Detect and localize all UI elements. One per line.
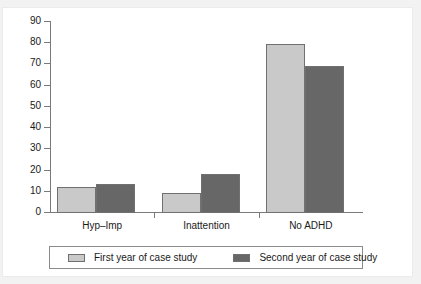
y-tick-mark [44,148,50,149]
y-tick-label: 60 [17,80,41,90]
y-tick-label-wrap: 30 [3,143,41,153]
y-tick-mark [44,106,50,107]
y-tick-label-wrap: 40 [3,122,41,132]
bar-0-2 [266,44,305,213]
chart-legend: First year of case study Second year of … [49,246,363,269]
y-tick-label-wrap: 0 [3,207,41,217]
x-tick-label-2: No ADHD [259,220,363,232]
y-tick-label-wrap: 20 [3,165,41,175]
y-tick-label: 10 [17,186,41,196]
y-tick-mark [44,127,50,128]
bar-chart-figure: 9080706050403020100 Hyp–ImpInattentionNo… [3,8,412,276]
bar-1-0 [96,184,135,213]
y-tick-mark [44,85,50,86]
x-tick-mark [259,213,260,218]
legend-label-second-year: Second year of case study [259,252,377,263]
bar-1-1 [201,174,240,213]
y-tick-label: 70 [17,58,41,68]
x-tick-label-0: Hyp–Imp [50,220,154,232]
legend-label-first-year: First year of case study [94,252,197,263]
y-tick-mark [44,170,50,171]
y-tick-mark [44,42,50,43]
y-tick-label-wrap: 60 [3,80,41,90]
y-tick-mark [44,21,50,22]
legend-swatch-second-year [233,254,250,262]
legend-entry-second-year: Second year of case study [233,252,377,263]
legend-entry-first-year: First year of case study [68,252,197,263]
y-tick-mark [44,212,50,213]
bar-0-0 [57,187,96,213]
y-tick-mark [44,191,50,192]
x-tick-mark [154,213,155,218]
y-tick-label: 30 [17,143,41,153]
y-tick-label-wrap: 70 [3,58,41,68]
y-tick-label: 50 [17,101,41,111]
y-tick-mark [44,63,50,64]
y-tick-label: 0 [17,207,41,217]
y-tick-label: 80 [17,37,41,47]
y-tick-label-wrap: 50 [3,101,41,111]
y-tick-label: 20 [17,165,41,175]
page-sheet: 9080706050403020100 Hyp–ImpInattentionNo… [3,8,412,276]
y-tick-label-wrap: 90 [3,16,41,26]
legend-swatch-first-year [68,254,85,262]
y-tick-label-wrap: 80 [3,37,41,47]
x-tick-label-1: Inattention [154,220,258,232]
y-tick-label: 40 [17,122,41,132]
bar-0-1 [162,193,201,213]
y-axis-line [50,21,51,213]
y-tick-label: 90 [17,16,41,26]
bar-1-2 [305,66,344,213]
y-tick-label-wrap: 10 [3,186,41,196]
